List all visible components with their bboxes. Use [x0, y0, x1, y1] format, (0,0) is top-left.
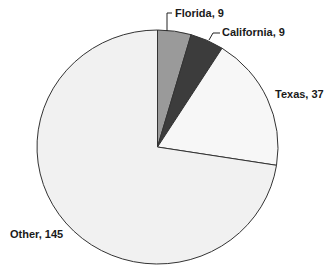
leader-line-california: [209, 33, 220, 40]
pie-slices: [37, 30, 278, 264]
label-florida: Florida, 9: [175, 7, 224, 19]
label-other: Other, 145: [10, 228, 63, 240]
leader-line-florida: [167, 13, 172, 31]
label-texas: Texas, 37: [275, 88, 324, 100]
label-california: California, 9: [222, 26, 285, 38]
pie-chart: Florida, 9 California, 9 Texas, 37 Other…: [0, 0, 333, 278]
